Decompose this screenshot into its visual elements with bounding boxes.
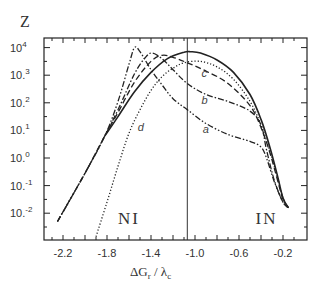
y-tick-label: 10.0 (10, 150, 30, 164)
curves (58, 47, 289, 237)
xlabel-sep: / λ (151, 264, 168, 279)
region-label-ni: NI (118, 209, 140, 228)
x-tick-labels: -2.2-1.8-1.4-1.0-0.6-0.2 (54, 247, 293, 259)
x-tick-label: -1.4 (142, 247, 161, 259)
y-tick-label: 10.-2 (10, 205, 33, 219)
curve-solid (105, 52, 289, 208)
curve-labels: abcd (138, 67, 209, 136)
curve-label-b: b (202, 94, 208, 106)
curve-label-d: d (138, 121, 145, 133)
x-tick-label: -2.2 (54, 247, 73, 259)
x-axis-title: ΔGr / λc (130, 264, 171, 281)
y-tick-label: 10.2 (10, 95, 30, 109)
y-tick-label: 10.-1 (10, 178, 33, 192)
x-tick-label: -1.0 (186, 247, 205, 259)
curve-a (58, 47, 289, 222)
y-tick-labels: 10410.310.210.110.010.-110.-2 (10, 40, 33, 220)
curve-label-a: a (203, 123, 209, 135)
xlabel-main: ΔG (130, 264, 148, 279)
chart: Z 10410.310.210.110.010.-110.-2 -2.2-1.8… (0, 0, 320, 293)
x-tick-label: -1.8 (98, 247, 117, 259)
x-tick-label: -0.6 (230, 247, 249, 259)
curve-label-c: c (202, 67, 208, 79)
y-axis-title: Z (20, 13, 30, 30)
region-annotations: NIIN (118, 209, 277, 228)
x-tick-label: -0.2 (274, 247, 293, 259)
curve-b (58, 53, 289, 221)
region-label-in: IN (256, 209, 278, 228)
y-tick-label: 104 (10, 40, 27, 54)
curve-c (58, 55, 289, 221)
y-tick-label: 10.3 (10, 67, 30, 81)
xlabel-sub2: c (167, 271, 171, 281)
y-tick-label: 10.1 (10, 122, 30, 136)
